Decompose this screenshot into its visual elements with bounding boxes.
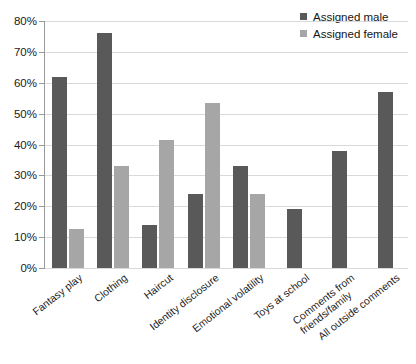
bar-group: [363, 21, 408, 268]
bar: [142, 225, 157, 268]
bar-group: [317, 21, 362, 268]
y-axis-tick-label: 0%: [20, 262, 37, 274]
x-axis-tick-label: Haircut: [142, 272, 175, 302]
bar-group: [45, 21, 90, 268]
x-axis-tick-label: Fantasy play: [30, 272, 84, 318]
gridline: [45, 268, 408, 269]
x-axis-labels: Fantasy playClothingHaircutIdentity disc…: [45, 270, 408, 364]
y-axis-tick-label: 30%: [14, 169, 37, 181]
bar-chart: Assigned male Assigned female 0%10%20%30…: [0, 0, 416, 364]
y-axis-tick-label: 50%: [14, 108, 37, 120]
bar: [52, 77, 67, 268]
bar: [250, 194, 265, 268]
bar-group: [181, 21, 226, 268]
plot-area: [45, 21, 408, 268]
y-axis-tick-label: 20%: [14, 200, 37, 212]
bar: [188, 194, 203, 268]
x-axis-tick-label: Clothing: [92, 272, 129, 305]
bar-group: [90, 21, 135, 268]
y-axis-tick-label: 10%: [14, 231, 37, 243]
y-axis-tick-label: 80%: [14, 15, 37, 27]
bar: [159, 140, 174, 268]
bar: [114, 166, 129, 268]
legend-swatch-icon: [300, 13, 307, 20]
bar: [97, 33, 112, 268]
bar: [287, 209, 302, 268]
bar: [378, 92, 393, 268]
bar: [69, 229, 84, 268]
bar: [332, 151, 347, 268]
y-axis-tick-label: 60%: [14, 77, 37, 89]
bar-group: [272, 21, 317, 268]
y-axis-tick-label: 70%: [14, 46, 37, 58]
bar: [233, 166, 248, 268]
y-axis-tick-label: 40%: [14, 139, 37, 151]
bar-group: [227, 21, 272, 268]
bar-group: [136, 21, 181, 268]
bar: [205, 103, 220, 268]
